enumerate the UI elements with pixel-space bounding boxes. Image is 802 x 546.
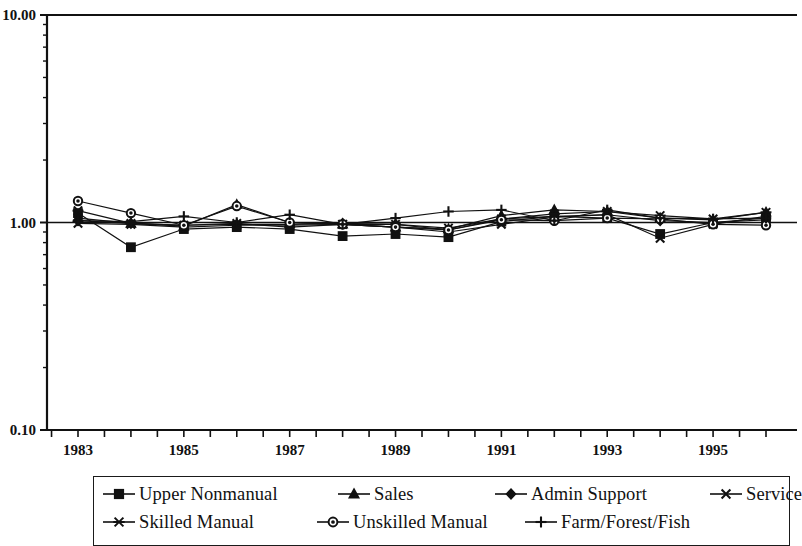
- legend-row: Skilled ManualUnskilled ManualFarm/Fores…: [94, 509, 789, 535]
- x-tick-label: 1995: [698, 442, 728, 458]
- y-tick-label: 1.00: [10, 215, 36, 231]
- marker-circle: [233, 202, 241, 210]
- chart-legend: Upper NonmanualSalesAdmin SupportService…: [93, 476, 790, 546]
- marker-circle: [391, 223, 399, 231]
- legend-item-farm-forest-fish[interactable]: Farm/Forest/Fish: [524, 509, 690, 535]
- diamond-marker-icon: [494, 486, 528, 502]
- marker-plus: [179, 211, 190, 222]
- marker-square: [115, 490, 124, 499]
- legend-item-skilled-manual[interactable]: Skilled Manual: [102, 509, 254, 535]
- x-tick-label: 1983: [63, 442, 93, 458]
- series-group: [73, 197, 772, 252]
- marker-circle: [603, 214, 611, 222]
- marker-circle: [329, 518, 338, 527]
- legend-label: Skilled Manual: [139, 512, 254, 532]
- legend-item-upper-nonmanual[interactable]: Upper Nonmanual: [102, 481, 278, 507]
- marker-plus: [536, 517, 547, 528]
- marker-star: [113, 518, 124, 527]
- legend-item-service[interactable]: Service: [709, 481, 802, 507]
- marker-plus: [443, 206, 454, 217]
- marker-circle: [497, 216, 505, 224]
- line-chart: 10.001.000.10 19831985198719891991199319…: [0, 0, 802, 470]
- y-axis: 10.001.000.10: [2, 7, 48, 438]
- x-tick-label: 1993: [592, 442, 622, 458]
- marker-circle: [74, 197, 82, 205]
- legend-label: Sales: [374, 484, 414, 504]
- marker-plus: [496, 205, 507, 216]
- square-marker-icon: [102, 486, 136, 502]
- x-tick-label: 1991: [486, 442, 516, 458]
- legend-item-sales[interactable]: Sales: [337, 481, 414, 507]
- triangle-marker-icon: [337, 486, 371, 502]
- plus-marker-icon: [524, 514, 558, 530]
- legend-label: Service: [746, 484, 802, 504]
- marker-circle: [127, 209, 135, 217]
- marker-square: [338, 232, 346, 240]
- legend-item-admin-support[interactable]: Admin Support: [494, 481, 647, 507]
- marker-plus: [284, 209, 295, 220]
- x-tick-label: 1985: [169, 442, 199, 458]
- y-tick-label: 0.10: [10, 422, 36, 438]
- marker-square: [127, 243, 135, 251]
- legend-label: Upper Nonmanual: [139, 484, 278, 504]
- x-axis: 1983198519871989199119931995: [52, 430, 766, 458]
- x-marker-icon: [709, 486, 743, 502]
- star-marker-icon: [102, 514, 136, 530]
- circle-marker-icon: [316, 514, 350, 530]
- x-tick-label: 1989: [381, 442, 411, 458]
- marker-diamond: [506, 489, 515, 499]
- legend-label: Admin Support: [531, 484, 647, 504]
- x-tick-label: 1987: [275, 442, 306, 458]
- legend-label: Farm/Forest/Fish: [561, 512, 690, 532]
- legend-item-unskilled-manual[interactable]: Unskilled Manual: [316, 509, 488, 535]
- legend-label: Unskilled Manual: [353, 512, 488, 532]
- marker-circle: [180, 221, 188, 229]
- marker-circle: [444, 226, 452, 234]
- legend-row: Upper NonmanualSalesAdmin SupportService: [94, 481, 789, 507]
- legend-rows: Upper NonmanualSalesAdmin SupportService…: [94, 477, 789, 545]
- y-tick-label: 10.00: [2, 7, 36, 23]
